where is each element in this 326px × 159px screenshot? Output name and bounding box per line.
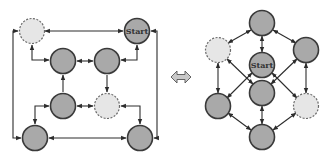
right-node-8 <box>250 125 275 150</box>
edge-r4-r7 <box>272 73 297 98</box>
edge-l6-l8 <box>121 106 140 124</box>
right-node-3 <box>294 38 319 63</box>
edge-r7-r8 <box>273 113 296 130</box>
edge-r1-r3 <box>273 30 296 43</box>
edge-r1-r2 <box>228 30 251 43</box>
edge-start-l8-outer <box>151 31 157 138</box>
right-node-2 <box>206 38 231 63</box>
left-node-6 <box>95 94 120 119</box>
left-grid-diagram: Start <box>13 19 157 151</box>
state-diagram-figure: Start <box>0 0 326 159</box>
edge-l5-l7 <box>35 106 49 124</box>
left-node-5 <box>51 94 76 119</box>
edge-l1-l3 <box>32 45 49 60</box>
edge-l1-l7-outer <box>13 31 21 138</box>
left-node-7 <box>23 126 48 151</box>
right-node-7 <box>294 94 319 119</box>
left-node-3 <box>51 49 76 74</box>
left-start-label: Start <box>126 26 149 36</box>
left-node-1 <box>20 19 45 44</box>
left-edges <box>13 31 157 138</box>
edge-r4-r5 <box>227 73 252 98</box>
left-node-8 <box>128 126 153 151</box>
right-cube-diagram: Start <box>206 11 319 150</box>
left-node-4 <box>95 49 120 74</box>
right-node-5 <box>206 94 231 119</box>
double-arrow-icon <box>171 71 191 83</box>
right-node-6 <box>250 81 275 106</box>
edge-r5-r8 <box>228 113 251 130</box>
edge-l4-start <box>121 45 137 60</box>
right-node-1 <box>250 11 275 36</box>
right-start-label: Start <box>251 60 274 70</box>
